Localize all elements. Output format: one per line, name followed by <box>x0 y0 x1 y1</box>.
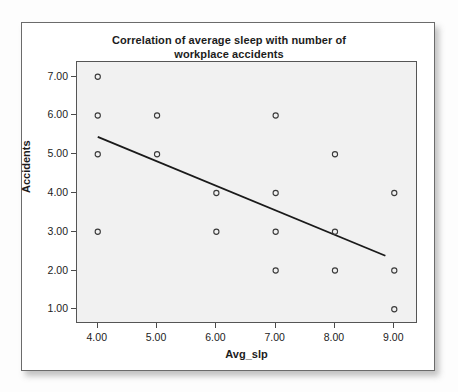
data-point <box>214 229 219 234</box>
x-tick-label: 5.00 <box>146 331 166 343</box>
x-tick-label: 4.00 <box>87 331 107 343</box>
y-tick-label: 6.00 <box>26 108 68 120</box>
regression-line <box>98 137 386 256</box>
x-tick-label: 7.00 <box>264 331 284 343</box>
data-point <box>95 74 100 79</box>
chart-title-line-1: Correlation of average sleep with number… <box>22 33 436 47</box>
data-point <box>154 113 159 118</box>
y-tick-label: 3.00 <box>26 225 68 237</box>
y-tick-label: 4.00 <box>26 186 68 198</box>
plot-area <box>76 61 417 323</box>
y-tick-label: 7.00 <box>26 70 68 82</box>
x-tick-label: 9.00 <box>383 331 403 343</box>
data-point <box>392 190 397 195</box>
data-point <box>214 190 219 195</box>
x-axis-title: Avg_slp <box>76 348 417 360</box>
data-point <box>273 113 278 118</box>
data-point <box>273 268 278 273</box>
x-tick-label: 8.00 <box>324 331 344 343</box>
data-point <box>332 229 337 234</box>
y-tick-label: 2.00 <box>26 264 68 276</box>
chart-screenshot: Correlation of average sleep with number… <box>0 0 458 392</box>
data-point <box>332 268 337 273</box>
data-point <box>273 190 278 195</box>
x-tick-label: 6.00 <box>205 331 225 343</box>
data-point <box>273 229 278 234</box>
data-point <box>95 152 100 157</box>
data-point <box>154 152 159 157</box>
data-point <box>95 229 100 234</box>
plot-canvas <box>77 62 418 324</box>
data-point <box>392 268 397 273</box>
y-tick-label: 1.00 <box>26 302 68 314</box>
figure-card: Correlation of average sleep with number… <box>21 22 435 371</box>
data-point <box>95 113 100 118</box>
data-point <box>392 307 397 312</box>
data-point <box>332 152 337 157</box>
chart-title: Correlation of average sleep with number… <box>22 33 436 61</box>
y-tick-label: 5.00 <box>26 147 68 159</box>
chart-title-line-2: workplace accidents <box>22 47 436 61</box>
